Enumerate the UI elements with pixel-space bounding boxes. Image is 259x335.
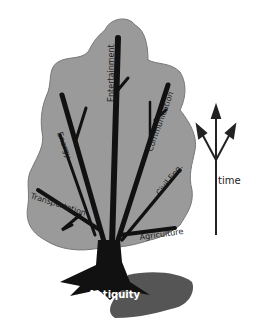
root-label-antiquity: Antiquity xyxy=(88,289,141,300)
time-arrow-icon xyxy=(197,106,235,235)
tree-diagram: Entertainment Communication Energy Civil… xyxy=(0,0,259,335)
time-axis-label: time xyxy=(218,175,241,186)
branch-label-entertainment: Entertainment xyxy=(107,44,116,102)
